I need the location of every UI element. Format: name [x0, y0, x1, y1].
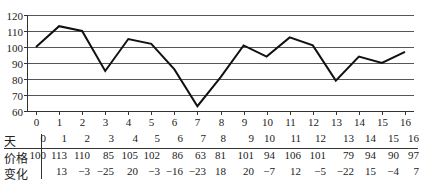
y-tick-label: 70: [12, 90, 24, 102]
day-cell: 11: [277, 132, 301, 144]
day-cell: 2: [66, 132, 90, 144]
x-tick-label: 2: [80, 116, 86, 128]
change-cell: −16: [159, 165, 183, 177]
x-tick-labels: 012345678910111213141516: [34, 116, 412, 128]
change-cell: −7: [251, 165, 275, 177]
table-row-price: 价格 1001131108510510286638110194106101799…: [0, 149, 422, 165]
price-cell: 94: [251, 149, 275, 161]
gridlines: [27, 16, 414, 96]
x-tick-label: 0: [34, 116, 40, 128]
table-row-change: 变化 13−3−2520−3−16−231820−712−5−2215−47: [0, 165, 422, 181]
x-tick-label: 11: [285, 116, 296, 128]
x-tick-label: 9: [242, 116, 248, 128]
price-cell: 105: [114, 149, 138, 161]
change-cell: 15: [352, 165, 376, 177]
day-cell: 12: [302, 132, 326, 144]
price-cell: 113: [43, 149, 67, 161]
price-cell: 97: [395, 149, 419, 161]
price-cell: 85: [90, 149, 114, 161]
change-cell: −22: [330, 165, 354, 177]
change-cell: −25: [90, 165, 114, 177]
change-cell: −3: [66, 165, 90, 177]
series-layer: [36, 26, 405, 106]
day-cell: 13: [330, 132, 354, 144]
change-cell: 12: [277, 165, 301, 177]
day-cell: 6: [159, 132, 183, 144]
x-tick-label: 8: [219, 116, 225, 128]
row-label-change: 变化: [4, 165, 38, 183]
change-cell: −5: [302, 165, 326, 177]
y-tick-label: 100: [7, 42, 24, 54]
day-cell: 8: [202, 132, 226, 144]
price-cell: 102: [136, 149, 160, 161]
price-cell: 110: [66, 149, 90, 161]
day-cell: 16: [395, 132, 419, 144]
x-tick-label: 10: [262, 116, 274, 128]
x-tick-label: 7: [195, 116, 201, 128]
price-cell: 101: [302, 149, 326, 161]
day-cell: 3: [90, 132, 114, 144]
change-cell: 20: [114, 165, 138, 177]
x-tick-label: 3: [103, 116, 109, 128]
line-chart: 60708090100110120 0123456789101112131415…: [0, 0, 422, 130]
x-tick-label: 1: [57, 116, 63, 128]
y-tick-label: 110: [7, 26, 24, 38]
axes: [24, 15, 414, 115]
y-tick-label: 120: [7, 10, 24, 22]
day-cell: 4: [114, 132, 138, 144]
day-cell: 5: [136, 132, 160, 144]
y-tick-label: 80: [12, 74, 24, 86]
x-tick-label: 15: [377, 116, 389, 128]
price-cell: 86: [159, 149, 183, 161]
x-tick-label: 6: [172, 116, 178, 128]
price-cell: 94: [352, 149, 376, 161]
price-cell: 106: [277, 149, 301, 161]
x-tick-label: 12: [308, 116, 319, 128]
x-tick-label: 4: [126, 116, 132, 128]
x-tick-label: 5: [149, 116, 155, 128]
day-cell: 1: [43, 132, 67, 144]
change-cell: −3: [136, 165, 160, 177]
x-tick-label: 16: [400, 116, 412, 128]
y-tick-label: 90: [12, 58, 24, 70]
price-cell: 79: [330, 149, 354, 161]
table-row-day: 天 012345678910111213141516: [0, 132, 422, 148]
y-tick-labels: 60708090100110120: [7, 10, 24, 118]
day-cell: 14: [352, 132, 376, 144]
change-cell: 7: [395, 165, 419, 177]
x-tick-label: 14: [354, 116, 366, 128]
series-line-price: [36, 26, 405, 106]
price-cell: 81: [202, 149, 226, 161]
day-cell: 10: [251, 132, 275, 144]
x-tick-label: 13: [331, 116, 343, 128]
change-cell: 18: [202, 165, 226, 177]
y-tick-label: 60: [12, 106, 24, 118]
change-cell: 13: [43, 165, 67, 177]
